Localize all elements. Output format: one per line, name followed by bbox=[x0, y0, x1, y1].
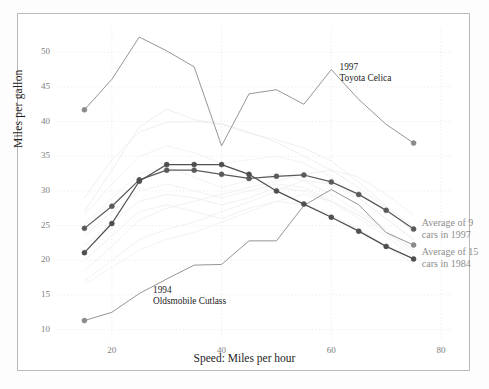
annotation-model: Toyota Celica bbox=[340, 73, 392, 84]
series-endpoint-marker bbox=[411, 141, 416, 146]
series-data-point bbox=[82, 250, 87, 255]
series-data-point bbox=[356, 192, 361, 197]
series-line bbox=[84, 37, 413, 146]
series-data-point bbox=[247, 172, 252, 177]
x-axis-tick-label: 80 bbox=[426, 345, 456, 355]
series-endpoint-marker bbox=[82, 318, 87, 323]
series-data-point bbox=[109, 221, 114, 226]
annotation-model: Oldsmobile Cutlass bbox=[153, 296, 226, 307]
series-line bbox=[84, 184, 413, 257]
y-axis-tick-label: 20 bbox=[24, 254, 50, 264]
series-data-point bbox=[329, 215, 334, 220]
x-axis-label: Speed: Miles per hour bbox=[0, 352, 489, 364]
series-data-point bbox=[219, 172, 224, 177]
y-axis-tick-label: 40 bbox=[24, 116, 50, 126]
chart-figure: Miles per gallon Speed: Miles per hour 1… bbox=[0, 0, 489, 389]
series-data-point bbox=[164, 168, 169, 173]
legend-avg9: Average of 9cars in 1997 bbox=[422, 217, 473, 241]
series-data-point bbox=[192, 162, 197, 167]
series-data-point bbox=[109, 204, 114, 209]
series-data-point bbox=[384, 244, 389, 249]
series-endpoint-marker bbox=[82, 107, 87, 112]
series-data-point bbox=[274, 188, 279, 193]
legend-label-line1: Average of 9 bbox=[422, 217, 473, 229]
annotation-cutlass: 1994Oldsmobile Cutlass bbox=[153, 285, 226, 307]
series-line bbox=[84, 190, 413, 321]
annotation-celica: 1997Toyota Celica bbox=[340, 62, 392, 84]
y-axis-tick-label: 35 bbox=[24, 150, 50, 160]
x-axis-tick-label: 20 bbox=[97, 345, 127, 355]
y-axis-label: Miles per gallon bbox=[12, 28, 24, 148]
series-line bbox=[84, 181, 413, 282]
y-axis-tick-label: 10 bbox=[24, 324, 50, 334]
chart-plot-area bbox=[0, 0, 489, 389]
legend-label-line2: cars in 1984 bbox=[422, 258, 478, 270]
series-data-point bbox=[301, 172, 306, 177]
y-axis-tick-label: 30 bbox=[24, 185, 50, 195]
x-axis-tick-label: 40 bbox=[207, 345, 237, 355]
legend-avg15: Average of 15cars in 1984 bbox=[422, 246, 478, 270]
series-data-point bbox=[274, 174, 279, 179]
legend-label-line2: cars in 1997 bbox=[422, 229, 473, 241]
series-data-point bbox=[219, 162, 224, 167]
y-axis-tick-label: 45 bbox=[24, 81, 50, 91]
y-axis-tick-label: 25 bbox=[24, 220, 50, 230]
series-data-point bbox=[384, 208, 389, 213]
series-line bbox=[84, 109, 413, 227]
series-data-point bbox=[192, 168, 197, 173]
annotation-year: 1994 bbox=[153, 285, 226, 296]
series-data-point bbox=[411, 256, 416, 261]
series-data-point bbox=[301, 202, 306, 207]
series-data-point bbox=[356, 229, 361, 234]
x-axis-tick-label: 60 bbox=[316, 345, 346, 355]
annotation-year: 1997 bbox=[340, 62, 392, 73]
series-data-point bbox=[411, 227, 416, 232]
series-data-point bbox=[164, 162, 169, 167]
series-data-point bbox=[137, 179, 142, 184]
series-data-point bbox=[329, 179, 334, 184]
legend-label-line1: Average of 15 bbox=[422, 246, 478, 258]
y-axis-tick-label: 15 bbox=[24, 289, 50, 299]
y-axis-tick-label: 50 bbox=[24, 46, 50, 56]
series-data-point bbox=[82, 226, 87, 231]
series-endpoint-marker bbox=[411, 243, 416, 248]
